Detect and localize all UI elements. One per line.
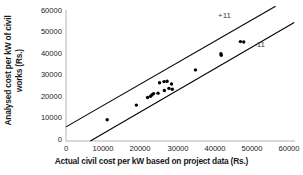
axes <box>66 10 295 141</box>
data-point <box>242 40 245 43</box>
data-point <box>152 92 155 95</box>
y-axis-title: Analysed cost per kW of civil works (Rs.… <box>3 6 24 136</box>
scatter-chart: 60000 50000 40000 30000 20000 10000 0 0 … <box>0 0 303 175</box>
plot-area <box>0 0 303 175</box>
data-point <box>158 81 161 84</box>
data-point <box>167 87 170 90</box>
x-axis-title: Actual civil cost per kW based on projec… <box>0 156 303 166</box>
data-point <box>156 91 159 94</box>
data-point <box>171 88 174 91</box>
data-point <box>194 68 197 71</box>
data-point <box>135 103 138 106</box>
y-axis-title-line-2: works (Rs.) <box>13 49 23 92</box>
data-point <box>146 96 149 99</box>
annotation-plus-11: +11 <box>218 11 231 20</box>
data-point <box>165 79 168 82</box>
y-axis-title-line-1: Analysed cost per kW of civil <box>3 15 13 125</box>
data-point <box>170 82 173 85</box>
data-points <box>105 40 245 121</box>
data-point <box>162 80 165 83</box>
data-point <box>220 54 223 57</box>
annotation-minus-11: -11 <box>254 40 265 49</box>
reference-line-+11 <box>66 6 276 127</box>
data-point <box>163 89 166 92</box>
data-point <box>105 118 108 121</box>
data-point <box>239 40 242 43</box>
reference-lines <box>66 6 294 141</box>
